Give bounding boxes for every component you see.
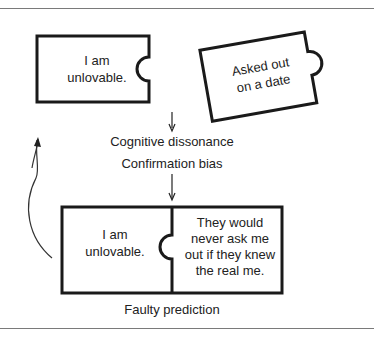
label-faulty-prediction: Faulty prediction bbox=[110, 301, 234, 318]
curved-feedback-arrow-icon bbox=[29, 137, 52, 258]
label-confirmation-bias: Confirmation bias bbox=[110, 155, 234, 172]
top-piece-text: I am unlovable. bbox=[57, 52, 137, 86]
arrow-down-icon bbox=[169, 174, 175, 200]
arrow-down-icon bbox=[169, 112, 175, 131]
bottom-left-piece-text: I am unlovable. bbox=[74, 226, 156, 260]
bottom-right-piece-text: They would never ask me out if they knew… bbox=[178, 215, 282, 279]
label-cognitive-dissonance: Cognitive dissonance bbox=[110, 133, 234, 150]
